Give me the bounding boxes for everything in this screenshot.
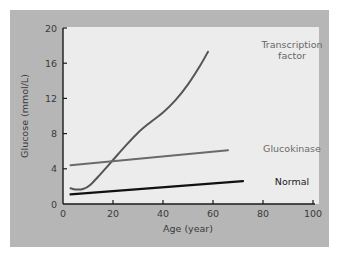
- x-tick-label: 0: [60, 208, 66, 219]
- y-tick-label: 0: [51, 199, 57, 210]
- x-tick-label: 80: [257, 208, 269, 219]
- chart: 020406080100048121620 Transcriptionfacto…: [0, 0, 338, 257]
- x-tick-label: 100: [304, 208, 322, 219]
- series-label: Glucokinase: [263, 143, 321, 154]
- y-tick-label: 12: [45, 93, 57, 104]
- x-tick-label: 60: [207, 208, 219, 219]
- x-tick-label: 20: [107, 208, 119, 219]
- y-tick-label: 8: [51, 128, 57, 139]
- series-label: Normal: [275, 176, 309, 187]
- x-axis-label: Age (year): [163, 223, 213, 234]
- y-tick-label: 4: [51, 163, 57, 174]
- series-label: Transcription: [260, 39, 322, 50]
- y-tick-label: 16: [45, 58, 57, 69]
- y-tick-label: 20: [45, 23, 57, 34]
- y-axis-label: Glucose (mmol/L): [19, 74, 30, 158]
- x-tick-label: 40: [157, 208, 169, 219]
- series-label: factor: [278, 50, 306, 61]
